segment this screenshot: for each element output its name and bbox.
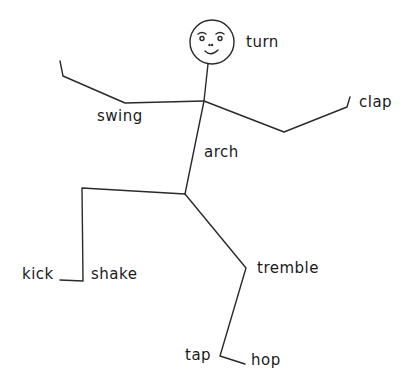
smile — [205, 50, 218, 54]
stick-figure-diagram: turn swing clap arch kick shake tremble … — [0, 0, 412, 388]
label-hop: hop — [251, 353, 281, 368]
label-tap: tap — [185, 348, 211, 363]
right-arm — [204, 97, 350, 132]
right-leg — [185, 194, 246, 364]
stick-figure — [0, 0, 412, 388]
head-outline — [190, 20, 234, 64]
left-arm — [60, 61, 204, 103]
label-kick: kick — [22, 267, 54, 282]
torso — [185, 64, 208, 194]
right-eyebrow — [216, 33, 224, 35]
right-eye-icon — [218, 37, 222, 41]
nostril-right — [212, 45, 213, 46]
label-tremble: tremble — [257, 261, 319, 276]
head — [190, 20, 234, 64]
label-clap: clap — [359, 95, 392, 110]
label-swing: swing — [97, 109, 143, 124]
label-shake: shake — [91, 267, 137, 282]
label-turn: turn — [246, 35, 279, 50]
left-eyebrow — [198, 33, 206, 35]
label-arch: arch — [204, 145, 239, 160]
left-eye-icon — [200, 37, 204, 41]
nostril-left — [209, 45, 210, 46]
